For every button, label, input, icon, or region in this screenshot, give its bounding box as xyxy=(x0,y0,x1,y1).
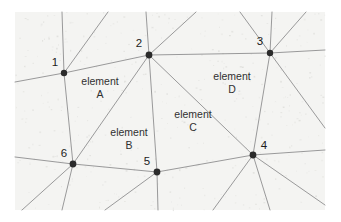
paper-speck xyxy=(275,57,276,58)
paper-speck xyxy=(100,101,101,102)
paper-speck xyxy=(308,58,310,59)
paper-speck xyxy=(242,67,244,68)
paper-speck xyxy=(60,205,61,207)
paper-speck xyxy=(219,27,220,28)
paper-speck xyxy=(213,65,214,66)
paper-speck xyxy=(60,54,61,55)
paper-speck xyxy=(179,96,180,98)
paper-speck xyxy=(260,152,261,153)
mesh-node-4 xyxy=(250,152,257,159)
paper-speck xyxy=(17,162,19,163)
paper-speck xyxy=(65,42,66,43)
paper-speck xyxy=(123,17,125,18)
paper-speck xyxy=(113,90,114,91)
paper-speck xyxy=(130,117,131,118)
paper-speck xyxy=(41,24,43,26)
paper-speck xyxy=(275,178,276,180)
paper-speck xyxy=(24,66,25,67)
paper-speck xyxy=(277,67,278,68)
paper-speck xyxy=(218,50,220,52)
paper-speck xyxy=(268,123,269,125)
paper-speck xyxy=(165,14,166,16)
paper-speck xyxy=(23,91,24,92)
paper-speck xyxy=(103,12,104,14)
paper-speck xyxy=(99,129,100,130)
paper-speck xyxy=(292,125,293,126)
paper-speck xyxy=(181,205,182,206)
paper-speck xyxy=(320,64,321,66)
paper-speck xyxy=(235,129,236,130)
paper-speck xyxy=(274,160,276,161)
paper-speck xyxy=(238,94,239,95)
paper-speck xyxy=(121,150,122,152)
paper-speck xyxy=(225,66,227,68)
paper-speck xyxy=(320,19,322,21)
paper-speck xyxy=(294,122,295,124)
paper-speck xyxy=(145,35,146,36)
paper-speck xyxy=(271,135,273,136)
paper-speck xyxy=(305,113,306,115)
paper-speck xyxy=(42,40,43,42)
paper-speck xyxy=(309,72,311,73)
paper-speck xyxy=(90,141,91,143)
paper-speck xyxy=(124,76,125,78)
paper-speck xyxy=(41,95,42,96)
paper-speck xyxy=(158,16,160,18)
paper-speck xyxy=(85,167,87,168)
paper-speck xyxy=(168,22,169,23)
paper-speck xyxy=(278,161,279,163)
paper-speck xyxy=(242,98,244,99)
paper-speck xyxy=(99,202,100,203)
paper-speck xyxy=(250,141,251,142)
paper-speck xyxy=(242,34,244,36)
paper-speck xyxy=(221,194,222,195)
paper-speck xyxy=(197,143,198,144)
paper-speck xyxy=(289,110,290,111)
paper-speck xyxy=(296,171,297,172)
paper-speck xyxy=(49,107,50,108)
paper-speck xyxy=(325,15,326,16)
paper-speck xyxy=(212,159,213,161)
paper-speck xyxy=(262,158,263,159)
paper-speck xyxy=(282,172,283,173)
paper-speck xyxy=(275,18,276,19)
paper-speck xyxy=(29,164,30,165)
paper-speck xyxy=(87,120,88,121)
paper-speck xyxy=(203,188,204,189)
paper-speck xyxy=(42,72,43,73)
paper-speck xyxy=(135,191,137,193)
paper-speck xyxy=(304,19,306,21)
paper-speck xyxy=(152,15,153,16)
paper-speck xyxy=(89,155,91,156)
paper-speck xyxy=(173,177,174,179)
paper-speck xyxy=(46,166,48,167)
paper-speck xyxy=(170,192,172,193)
paper-speck xyxy=(322,102,324,103)
paper-speck xyxy=(322,176,323,177)
paper-speck xyxy=(86,176,87,177)
paper-speck xyxy=(41,26,42,27)
paper-speck xyxy=(212,49,214,50)
paper-speck xyxy=(302,101,304,102)
paper-speck xyxy=(116,194,117,195)
paper-speck xyxy=(61,110,62,111)
paper-speck xyxy=(52,156,54,158)
paper-speck xyxy=(122,90,123,91)
paper-speck xyxy=(102,185,103,186)
paper-speck xyxy=(235,165,237,166)
paper-speck xyxy=(67,41,68,42)
paper-speck xyxy=(20,38,21,39)
paper-speck xyxy=(218,14,219,15)
paper-speck xyxy=(185,167,187,169)
paper-speck xyxy=(39,145,41,146)
mesh-node-2 xyxy=(146,52,153,59)
paper-speck xyxy=(138,176,139,177)
mesh-node-1 xyxy=(61,70,67,76)
paper-speck xyxy=(158,183,159,184)
paper-speck xyxy=(245,38,246,40)
paper-speck xyxy=(95,135,96,136)
paper-speck xyxy=(206,160,208,161)
paper-speck xyxy=(88,135,89,137)
paper-speck xyxy=(117,21,118,23)
paper-speck xyxy=(224,63,225,64)
